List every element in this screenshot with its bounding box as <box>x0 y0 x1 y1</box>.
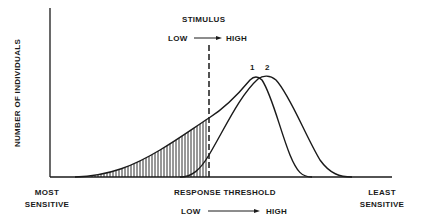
most-sensitive-line1: MOST <box>22 188 72 197</box>
curve-1 <box>75 77 312 177</box>
stimulus-arrowhead-icon <box>216 36 222 40</box>
threshold-low-label: LOW <box>181 207 201 216</box>
least-sensitive-line1: LEAST <box>352 188 412 197</box>
y-axis-label: NUMBER OF INDIVIDUALS <box>13 39 22 147</box>
curve-1-label: 1 <box>250 63 255 72</box>
stimulus-low-label: LOW <box>168 34 188 43</box>
threshold-high-label: HIGH <box>266 207 287 216</box>
most-sensitive-line2: SENSITIVE <box>22 200 72 209</box>
stimulus-high-label: HIGH <box>226 34 247 43</box>
curve-2-label: 2 <box>265 63 270 72</box>
most-sensitive-label: MOST SENSITIVE <box>22 188 72 209</box>
least-sensitive-label: LEAST SENSITIVE <box>352 188 412 209</box>
stimulus-title: STIMULUS <box>182 15 225 24</box>
threshold-arrowhead-icon <box>254 209 260 213</box>
least-sensitive-line2: SENSITIVE <box>352 200 412 209</box>
x-axis-label: RESPONSE THRESHOLD <box>174 188 276 197</box>
hatched-area <box>92 100 206 177</box>
